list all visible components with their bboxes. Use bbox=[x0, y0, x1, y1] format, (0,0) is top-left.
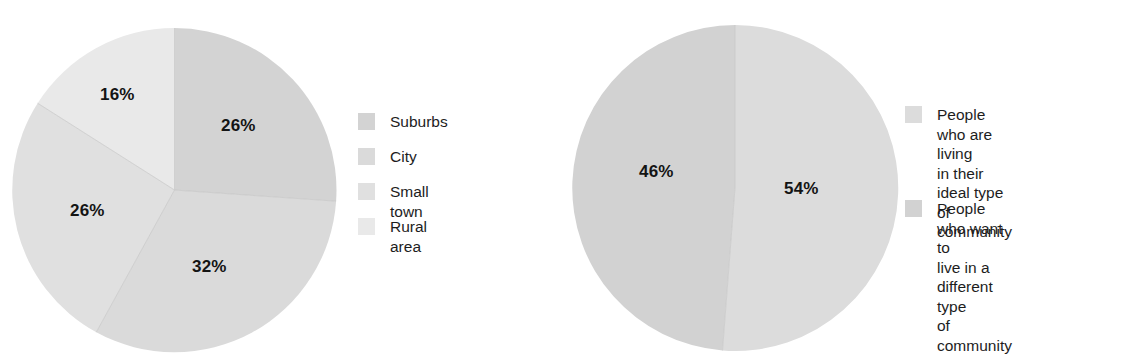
legend-swatch-suburbs bbox=[358, 113, 375, 130]
ideal-community-pie: 46% 54% bbox=[560, 0, 960, 361]
legend-label-city: City bbox=[390, 147, 417, 167]
legend-swatch-rural-area bbox=[358, 218, 375, 235]
pie-label-rural-area: 16% bbox=[100, 86, 135, 103]
legend-item-city[interactable]: City bbox=[358, 147, 417, 167]
legend-swatch-different bbox=[905, 200, 922, 217]
pie-svg-left bbox=[0, 0, 360, 361]
legend-label-suburbs: Suburbs bbox=[390, 112, 448, 132]
legend-label-different: People who want to live in a different t… bbox=[937, 199, 1012, 355]
community-type-pie: 16% 26% 26% 32% bbox=[0, 0, 360, 361]
legend-swatch-city bbox=[358, 148, 375, 165]
pie-svg-right bbox=[560, 0, 960, 361]
legend-item-suburbs[interactable]: Suburbs bbox=[358, 112, 448, 132]
pie-slice-suburbs bbox=[175, 28, 337, 201]
legend-label-small-town: Small town bbox=[390, 182, 429, 221]
pie-label-city: 32% bbox=[192, 258, 227, 275]
pie-slice-different bbox=[572, 25, 735, 351]
pie-label-different: 46% bbox=[639, 163, 674, 180]
legend-label-rural-area: Rural area bbox=[390, 217, 427, 256]
community-type-chart: 16% 26% 26% 32% Suburbs City Small town … bbox=[0, 0, 540, 361]
pie-chart-figure: 16% 26% 26% 32% Suburbs City Small town … bbox=[0, 0, 1136, 361]
pie-label-suburbs: 26% bbox=[221, 117, 256, 134]
legend-swatch-ideal bbox=[905, 106, 922, 123]
legend-item-small-town[interactable]: Small town bbox=[358, 182, 429, 221]
pie-label-ideal: 54% bbox=[784, 180, 819, 197]
legend-item-different[interactable]: People who want to live in a different t… bbox=[905, 199, 1012, 355]
legend-swatch-small-town bbox=[358, 183, 375, 200]
pie-label-small-town: 26% bbox=[70, 202, 105, 219]
legend-item-rural-area[interactable]: Rural area bbox=[358, 217, 427, 256]
ideal-community-chart: 46% 54% People who are living in their i… bbox=[560, 0, 1136, 361]
